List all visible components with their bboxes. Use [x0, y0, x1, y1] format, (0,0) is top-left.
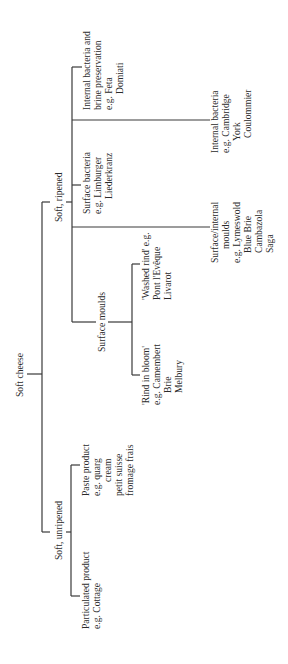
svg-text:Internal bacteria and: Internal bacteria and: [81, 31, 92, 110]
node-washed-rind: 'Washed rind' e.g. Pont l'Evêque Livarot: [140, 232, 173, 300]
node-soft-ripened: Soft, ripened: [53, 172, 64, 222]
svg-text:York: York: [231, 122, 242, 141]
svg-text:petit suisse: petit suisse: [113, 454, 124, 496]
svg-text:Surface/internal: Surface/internal: [209, 201, 220, 263]
node-surface-bacteria: Surface bacteria e.g. Limburger Liederkr…: [81, 151, 114, 214]
svg-text:e.g. quarg: e.g. quarg: [91, 458, 102, 496]
svg-text:Liederkranz: Liederkranz: [103, 153, 114, 199]
svg-text:brine preservation: brine preservation: [92, 40, 103, 110]
node-particulated-product: Particulated product e.g. Cottage: [80, 551, 102, 629]
node-paste-product: Paste product e.g. quarg cream petit sui…: [80, 444, 135, 496]
svg-text:Internal bacteria: Internal bacteria: [209, 90, 220, 153]
soft-cheese-classification-tree: Soft cheese Soft, ripened Internal bacte…: [0, 0, 288, 664]
node-surface-moulds: Surface moulds: [96, 292, 107, 352]
svg-text:e.g. Feta: e.g. Feta: [103, 76, 114, 110]
node-soft-cheese: Soft cheese: [14, 353, 25, 397]
node-surface-internal-moulds: Surface/internal moulds e.g. Lymeswold B…: [209, 201, 275, 263]
svg-text:Particulated product: Particulated product: [80, 551, 91, 629]
node-internal-bacteria: Internal bacteria e.g. Cambridge York Co…: [209, 89, 253, 153]
svg-text:'Washed rind' e.g.: 'Washed rind' e.g.: [140, 232, 151, 300]
svg-text:fromage frais: fromage frais: [124, 444, 135, 496]
svg-text:Saga: Saga: [264, 234, 275, 253]
node-rind-in-bloom: 'Rind in bloom' e.g. Camembert Brie Melb…: [140, 344, 184, 405]
svg-text:Livarot: Livarot: [162, 271, 173, 300]
svg-text:e.g. Camembert: e.g. Camembert: [151, 344, 162, 405]
svg-text:e.g. Lymeswold: e.g. Lymeswold: [231, 202, 242, 263]
svg-text:cream: cream: [102, 458, 113, 482]
svg-text:e.g. Cambridge: e.g. Cambridge: [220, 94, 231, 153]
svg-text:Cambazola: Cambazola: [253, 209, 264, 253]
svg-text:Coulommier: Coulommier: [242, 89, 253, 138]
svg-text:'Rind in bloom': 'Rind in bloom': [140, 346, 151, 405]
svg-text:Melbury: Melbury: [173, 360, 184, 393]
svg-text:e.g. Limburger: e.g. Limburger: [92, 156, 103, 214]
svg-text:Domiati: Domiati: [114, 62, 125, 94]
svg-text:e.g. Cottage: e.g. Cottage: [91, 583, 102, 629]
svg-text:Paste product: Paste product: [80, 444, 91, 496]
svg-text:Pont l'Evêque: Pont l'Evêque: [151, 247, 162, 300]
svg-text:moulds: moulds: [220, 220, 231, 249]
svg-text:Surface bacteria: Surface bacteria: [81, 151, 92, 214]
node-soft-unripened: Soft, unripened: [53, 501, 64, 560]
svg-text:Brie: Brie: [162, 376, 173, 393]
node-internal-bacteria-brine: Internal bacteria and brine preservation…: [81, 31, 125, 110]
svg-text:Blue Brie: Blue Brie: [242, 216, 253, 253]
